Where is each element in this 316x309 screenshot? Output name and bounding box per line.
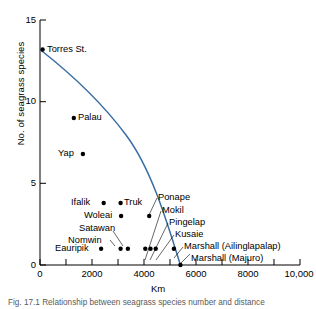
leader-nomwin xyxy=(110,240,115,246)
point-label-torres-st: Torres St. xyxy=(47,45,87,54)
data-point-marshall-majuro[interactable] xyxy=(178,263,182,267)
data-point-marshall-ailinglapalap[interactable] xyxy=(172,247,176,251)
y-axis-title: No. of seagrass species xyxy=(15,14,26,174)
y-tick-label-15: 15 xyxy=(16,14,36,25)
point-label-truk: Truk xyxy=(124,198,142,207)
data-point-eauripik[interactable] xyxy=(99,247,103,251)
x-axis-title: Km xyxy=(0,283,316,294)
x-tick-label-6000: 6000 xyxy=(182,268,210,279)
point-label-eauripik: Eauripik xyxy=(55,244,89,253)
point-label-satawan: Satawan xyxy=(79,224,115,233)
data-point-ifalik[interactable] xyxy=(102,201,106,205)
data-point-nomwin[interactable] xyxy=(118,247,122,251)
y-tick-label-5: 5 xyxy=(22,177,36,188)
point-label-mokil: Mokil xyxy=(162,206,184,215)
leader-ponape xyxy=(149,198,157,215)
y-tick-label-10: 10 xyxy=(16,95,36,106)
y-axis-ticks xyxy=(40,20,46,265)
point-label-marshall-ailinglapalap: Marshall (Ailinglapalap) xyxy=(184,242,281,251)
x-tick-label-0: 0 xyxy=(34,268,46,279)
point-label-kusaie: Kusaie xyxy=(175,230,203,239)
figure-caption: Fig. 17.1 Relationship between seagrass … xyxy=(8,298,308,309)
data-point-ponape[interactable] xyxy=(147,214,151,218)
data-point-woleai[interactable] xyxy=(119,214,123,218)
leader-kusaie xyxy=(156,235,174,260)
point-label-woleai: Woleai xyxy=(84,211,112,220)
leader-marshall-m xyxy=(181,254,190,263)
data-point-truk[interactable] xyxy=(118,201,122,205)
data-point-yap[interactable] xyxy=(81,152,85,156)
x-tick-label-8000: 8000 xyxy=(234,268,262,279)
data-point-palau[interactable] xyxy=(72,116,76,120)
data-point-kusaie[interactable] xyxy=(154,247,158,251)
leader-pingelap xyxy=(150,223,168,260)
data-point-torres-st[interactable] xyxy=(40,47,44,51)
leader-mokil xyxy=(145,211,161,260)
x-tick-label-10000: 10,000 xyxy=(282,268,316,279)
data-point-mokil[interactable] xyxy=(143,247,147,251)
point-label-palau: Palau xyxy=(78,113,102,122)
x-tick-label-2000: 2000 xyxy=(78,268,106,279)
figure-container: No. of seagrass species Km 0 5 10 15 0 2… xyxy=(0,0,316,309)
point-label-pingelap: Pingelap xyxy=(169,218,205,227)
point-label-ifalik: Ifalik xyxy=(71,198,90,207)
point-label-ponape: Ponape xyxy=(158,193,190,202)
data-point-satawan[interactable] xyxy=(126,247,130,251)
x-tick-label-4000: 4000 xyxy=(130,268,158,279)
point-label-marshall-majuro: Marshall (Majuro) xyxy=(191,254,263,263)
data-point-pingelap[interactable] xyxy=(148,247,152,251)
point-label-yap: Yap xyxy=(58,149,74,158)
